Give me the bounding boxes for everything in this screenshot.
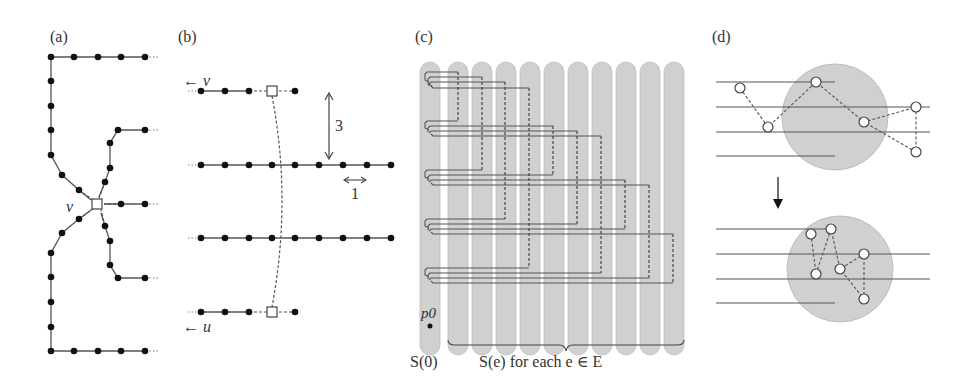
- panel-d: (d): [690, 0, 972, 389]
- distance-3-arrow: [325, 93, 333, 159]
- panel-b: (b) ← v ← u 3 1: [170, 0, 410, 389]
- vertex-v-label: v: [66, 198, 74, 215]
- arrow-v-label: ← v: [183, 72, 211, 89]
- s0-label: S(0): [410, 353, 438, 371]
- panel-b-dashed: [249, 91, 295, 312]
- distance-3-label: 3: [335, 117, 343, 134]
- distance-1-arrow: [344, 177, 366, 183]
- square-vertex-v: [92, 199, 102, 209]
- p0-label: p0: [420, 305, 437, 321]
- se-label: S(e) for each e ∈ E: [479, 353, 602, 371]
- transform-arrow-icon: [773, 177, 783, 209]
- strip-regions: [420, 62, 684, 355]
- panel-c: (c): [405, 0, 695, 389]
- panel-a-label: (a): [50, 28, 68, 46]
- distance-1-label: 1: [351, 185, 359, 202]
- panel-d-label: (d): [712, 28, 731, 46]
- arrow-u-label: ← u: [183, 318, 211, 335]
- square-vertex-v: [267, 86, 277, 96]
- panel-b-dotted-ends: [188, 91, 201, 312]
- panel-b-vertices: [198, 88, 395, 316]
- square-vertex-u: [267, 307, 277, 317]
- panel-b-lines: [201, 91, 391, 312]
- panel-a: (a) v: [0, 0, 170, 389]
- region-disk-before: [782, 64, 888, 170]
- panel-b-label: (b): [178, 28, 197, 46]
- panel-c-label: (c): [415, 28, 433, 46]
- point-p0: [428, 324, 433, 329]
